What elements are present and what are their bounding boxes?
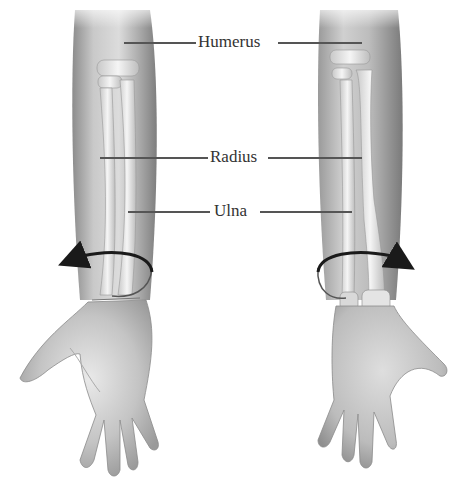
right-arm-pronated <box>318 10 447 468</box>
radius-leader-right <box>268 157 362 159</box>
forearm-rotation-diagram <box>0 0 473 484</box>
label-radius: Radius <box>208 147 259 167</box>
left-arm-supinated <box>20 10 158 476</box>
humerus-leader-right <box>278 42 362 44</box>
label-ulna: Ulna <box>212 201 249 221</box>
humerus-leader-left <box>124 42 196 44</box>
label-humerus: Humerus <box>196 32 262 52</box>
ulna-leader-left <box>128 211 210 213</box>
ulna-leader-right <box>260 211 352 213</box>
radius-leader-left <box>100 157 208 159</box>
